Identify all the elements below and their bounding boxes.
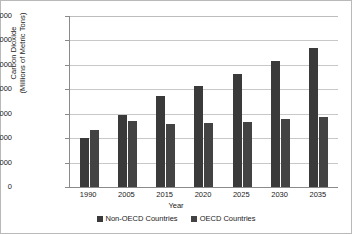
y-axis-tick-label: 30000 (0, 36, 12, 44)
legend-item[interactable]: OECD Countries (191, 214, 256, 223)
y-axis-tick-label: 10000 (0, 134, 12, 142)
bar-group (261, 16, 299, 187)
legend-label: OECD Countries (200, 214, 256, 223)
bar (166, 124, 175, 188)
bar (194, 86, 203, 187)
x-axis-label: Year (1, 201, 351, 210)
bar-group (300, 16, 338, 187)
bar (128, 121, 137, 187)
bar-chart-figure: Carbon Dioxide (Millions of Metric Tons)… (0, 0, 352, 234)
legend-item[interactable]: Non-OECD Countries (97, 214, 178, 223)
legend-label: Non-OECD Countries (106, 214, 178, 223)
plot-area (69, 16, 338, 188)
bar (243, 122, 252, 187)
bar (281, 119, 290, 187)
bar-group (70, 16, 108, 187)
bar (156, 96, 165, 187)
y-axis-label-line2: (Millions of Metric Tons) (18, 12, 28, 93)
y-axis-tick-label: 20000 (0, 85, 12, 93)
x-axis-tick-label: 2035 (288, 190, 348, 199)
bar-group (147, 16, 185, 187)
legend-swatch-icon (97, 216, 103, 222)
bar (309, 48, 318, 187)
legend-swatch-icon (191, 216, 197, 222)
bar (233, 74, 242, 187)
bar (80, 138, 89, 187)
bar (319, 117, 328, 187)
bar (271, 61, 280, 187)
y-axis-tick-label: 5000 (0, 159, 12, 167)
y-axis-tick-label: 25000 (0, 61, 12, 69)
bar-group (185, 16, 223, 187)
bar (90, 130, 99, 187)
y-axis-tick-label: 0 (0, 183, 12, 191)
bar-group (223, 16, 261, 187)
y-axis-tick-label: 35000 (0, 12, 12, 20)
chart-legend: Non-OECD CountriesOECD Countries (1, 214, 351, 223)
bar-group (108, 16, 146, 187)
y-axis-tick-label: 15000 (0, 110, 12, 118)
y-axis-label-line1: Carbon Dioxide (9, 26, 19, 79)
bar (204, 123, 213, 187)
bar (118, 115, 127, 187)
